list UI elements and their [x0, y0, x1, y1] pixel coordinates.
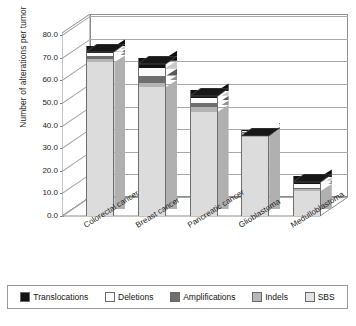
legend-label: Amplifications [183, 292, 235, 302]
bar-segment-amplifications[interactable] [190, 103, 218, 108]
chart-container: Number of alterations per tumor 80.070.0… [0, 0, 356, 326]
bar-segment-sbs[interactable] [138, 87, 166, 216]
bar-top-cap [293, 169, 332, 181]
bar-segment-indels[interactable] [293, 189, 321, 191]
legend-item-sbs[interactable]: SBS [305, 292, 335, 302]
legend-item-amplifications[interactable]: Amplifications [170, 292, 235, 302]
legend-label: Indels [265, 292, 288, 302]
bar-column[interactable] [138, 14, 166, 216]
legend-swatch-amplifications [170, 292, 180, 302]
plot-area [62, 14, 348, 216]
y-axis-tick-label: 60.0 [18, 76, 58, 84]
bar-top-cap [138, 51, 177, 63]
bar-segment-sbs[interactable] [86, 62, 114, 216]
legend-item-deletions[interactable]: Deletions [105, 292, 153, 302]
legend-swatch-indels [252, 292, 262, 302]
bar-segment-side-sbs [166, 80, 177, 209]
y-axis-tick-label: 30.0 [18, 144, 58, 152]
y-axis-tick-label: 70.0 [18, 54, 58, 62]
bar-column[interactable] [293, 14, 321, 216]
legend-item-indels[interactable]: Indels [252, 292, 288, 302]
bar-segment-amplifications[interactable] [138, 76, 166, 83]
y-axis-tick-label: 10.0 [18, 189, 58, 197]
legend-label: Translocations [33, 292, 88, 302]
bar-segment-indels[interactable] [86, 59, 114, 62]
bar-segment-indels[interactable] [138, 83, 166, 88]
bar-segment-amplifications[interactable] [86, 56, 114, 58]
y-axis-tick-label: 50.0 [18, 99, 58, 107]
bar-segment-side-sbs [218, 105, 229, 209]
bar-column[interactable] [190, 14, 218, 216]
legend-swatch-deletions [105, 292, 115, 302]
legend-label: SBS [318, 292, 335, 302]
y-axis-tick-label: 80.0 [18, 31, 58, 39]
y-axis-tick-label: 20.0 [18, 167, 58, 175]
legend-swatch-sbs [305, 292, 315, 302]
bar-top-cap [241, 123, 280, 135]
bar-column[interactable] [86, 14, 114, 216]
y-axis-tick-labels: 80.070.060.050.040.030.020.010.00.0 [18, 0, 58, 326]
bar-column[interactable] [241, 14, 269, 216]
bar-segment-deletions[interactable] [138, 68, 166, 76]
bar-segment-amplifications[interactable] [293, 188, 321, 189]
bar-segment-indels[interactable] [190, 107, 218, 112]
y-axis-tick-label: 0.0 [18, 212, 58, 220]
legend-swatch-translocations [20, 292, 30, 302]
bar-top-cap [86, 39, 125, 51]
bar-segment-deletions[interactable] [190, 98, 218, 103]
legend-label: Deletions [118, 292, 153, 302]
bar-segment-deletions[interactable] [86, 53, 114, 56]
bar-segment-sbs[interactable] [190, 112, 218, 216]
chart-legend: TranslocationsDeletionsAmplificationsInd… [7, 285, 348, 309]
bar-segment-deletions[interactable] [293, 184, 321, 187]
bar-top-cap [190, 83, 229, 95]
bar-segment-side-sbs [114, 55, 125, 209]
y-axis-tick-label: 40.0 [18, 122, 58, 130]
legend-item-translocations[interactable]: Translocations [20, 292, 88, 302]
